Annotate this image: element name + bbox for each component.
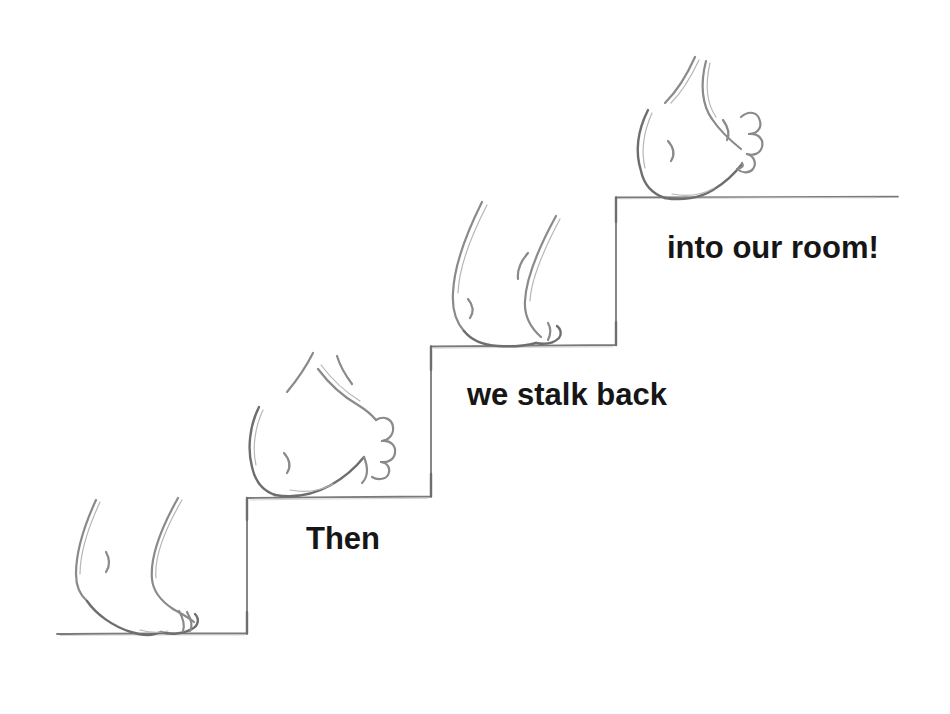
caption-into-our-room: into our room! [667, 231, 879, 265]
foot-sketch-step-1 [76, 498, 198, 635]
illustration-canvas: Then we stalk back into our room! [0, 0, 950, 714]
caption-we-stalk-back: we stalk back [467, 378, 667, 412]
foot-sketch-step-2 [250, 353, 396, 496]
caption-then: Then [306, 522, 380, 556]
foot-sketch-step-3 [453, 202, 561, 346]
staircase-feet-drawing [0, 0, 950, 714]
foot-sketch-step-4 [638, 57, 762, 199]
